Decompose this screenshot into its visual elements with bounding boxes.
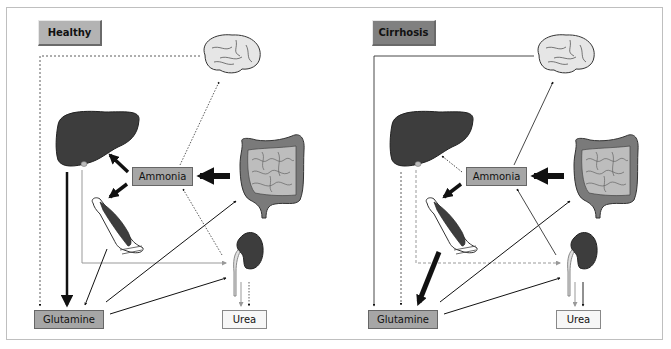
brain-icon: [204, 35, 260, 73]
liver-icon: [390, 111, 473, 166]
flow-muscle-to-glutamine: [419, 252, 439, 302]
urea-node: Urea: [222, 310, 267, 329]
flow-kidney-to-ammonia: [517, 189, 556, 255]
panel-healthy: Healthy Ammonia Glutamine Urea: [0, 0, 336, 349]
panel-title-healthy: Healthy: [38, 20, 102, 46]
flow-ammonia-to-brain: [180, 82, 219, 165]
glutamine-node: Glutamine: [34, 310, 104, 329]
flow-glutamine-to-kidney: [110, 278, 226, 314]
flow-ammonia-to-muscle: [444, 184, 461, 197]
brain-icon: [538, 35, 594, 73]
muscle-icon: [92, 198, 143, 254]
kidney-icon: [234, 233, 263, 296]
liver-icon: [56, 111, 139, 166]
intestine-icon: [574, 135, 638, 218]
flow-glutamine-to-intestine: [106, 201, 236, 302]
panel-title-cirrhosis: Cirrhosis: [372, 20, 436, 46]
flow-ammonia-to-muscle: [110, 184, 127, 197]
kidney-icon: [568, 233, 597, 296]
intestine-icon: [240, 135, 304, 218]
flow-ammonia-to-liver: [110, 155, 128, 172]
muscle-icon: [426, 198, 477, 254]
panel-cirrhosis: Cirrhosis Ammonia Glutamine Urea: [334, 0, 670, 349]
glutamine-node: Glutamine: [368, 310, 438, 329]
ammonia-node: Ammonia: [132, 167, 193, 186]
flow-ammonia-to-liver: [442, 156, 462, 172]
flow-muscle-to-glutamine: [85, 249, 107, 305]
flow-kidney-to-ammonia: [183, 189, 222, 255]
flow-glutamine-to-intestine: [440, 201, 570, 302]
ammonia-node: Ammonia: [466, 167, 527, 186]
urea-node: Urea: [556, 310, 601, 329]
flow-glutamine-to-kidney: [444, 278, 560, 314]
flow-ammonia-to-brain: [514, 82, 553, 165]
